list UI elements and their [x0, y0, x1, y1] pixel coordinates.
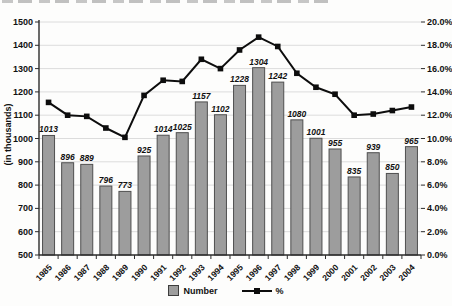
left-axis-tick-label: 1300 — [13, 64, 33, 74]
bar-value-label: 1080 — [287, 109, 306, 119]
x-axis-year-label: 1997 — [263, 262, 284, 283]
right-axis-tick-label: 6.0% — [427, 180, 448, 190]
x-axis-year-label: 1990 — [129, 262, 150, 283]
percent-marker-1998 — [294, 70, 300, 76]
bar-1988 — [100, 186, 112, 255]
x-axis-year-label: 1993 — [186, 262, 207, 283]
x-axis-year-label: 1987 — [72, 262, 93, 283]
bar-value-label: 1157 — [192, 91, 212, 101]
legend-label-percent: % — [276, 286, 284, 296]
left-axis-tick-label: 700 — [18, 203, 33, 213]
percent-marker-1996 — [256, 34, 262, 40]
x-axis-year-label: 1986 — [53, 262, 74, 283]
percent-line — [49, 37, 412, 137]
percent-marker-2004 — [409, 104, 415, 110]
bar-value-label: 965 — [404, 136, 418, 146]
bar-1985 — [43, 135, 55, 255]
percent-marker-1991 — [160, 77, 166, 83]
percent-marker-2001 — [351, 112, 357, 118]
right-axis-tick-label: 2.0% — [427, 227, 448, 237]
bar-1999 — [310, 138, 322, 255]
bar-value-label: 896 — [61, 152, 75, 162]
bar-1986 — [62, 163, 74, 255]
percent-marker-1999 — [313, 84, 319, 90]
percent-marker-1992 — [179, 79, 185, 85]
bar-value-label: 1025 — [173, 122, 192, 132]
bar-value-label: 1102 — [211, 104, 230, 114]
x-axis-year-label: 1995 — [225, 262, 246, 283]
bar-value-label: 1304 — [249, 57, 268, 67]
right-axis-tick-label: 10.0% — [427, 134, 452, 144]
line-swatch-icon — [242, 286, 272, 296]
bar-value-label: 939 — [366, 142, 380, 152]
right-axis-tick-label: 12.0% — [427, 110, 452, 120]
legend-item-number: Number — [168, 285, 217, 296]
right-axis-tick-label: 20.0% — [427, 17, 452, 27]
bar-2003 — [386, 173, 398, 255]
left-axis-tick-label: 500 — [18, 250, 33, 260]
percent-marker-1990 — [141, 93, 147, 99]
chart-page: (in thousands) 1013896889796773925101410… — [0, 0, 452, 306]
right-axis-tick-label: 0.0% — [427, 250, 448, 260]
bar-1992 — [176, 133, 188, 255]
bar-value-label: 1013 — [39, 124, 58, 134]
x-axis-year-label: 1988 — [91, 262, 112, 283]
bar-value-label: 773 — [118, 180, 132, 190]
percent-marker-1986 — [65, 112, 71, 118]
bar-2004 — [405, 147, 417, 255]
bar-2001 — [348, 177, 360, 255]
bar-value-label: 1242 — [268, 71, 287, 81]
percent-marker-2002 — [370, 111, 376, 117]
combo-chart: 1013896889796773925101410251157110212281… — [0, 0, 452, 306]
left-axis-tick-label: 1100 — [13, 110, 33, 120]
left-axis-tick-label: 800 — [18, 180, 33, 190]
percent-marker-2000 — [332, 91, 338, 97]
bar-value-label: 850 — [385, 162, 399, 172]
percent-marker-1985 — [46, 100, 52, 106]
left-axis-tick-label: 1200 — [13, 87, 33, 97]
bar-1994 — [214, 115, 226, 255]
percent-marker-1997 — [275, 44, 281, 50]
right-axis-tick-label: 18.0% — [427, 40, 452, 50]
percent-marker-1988 — [103, 125, 109, 131]
percent-marker-1995 — [237, 47, 243, 53]
x-axis-year-label: 1999 — [301, 262, 322, 283]
right-axis-tick-label: 4.0% — [427, 203, 448, 213]
bar-1987 — [81, 164, 93, 255]
bar-value-label: 1014 — [154, 124, 173, 134]
bar-value-label: 796 — [99, 175, 113, 185]
percent-marker-1987 — [84, 114, 90, 120]
x-axis-year-label: 1985 — [34, 262, 55, 283]
left-axis-tick-label: 1500 — [13, 17, 33, 27]
bar-1997 — [272, 82, 284, 255]
legend-label-number: Number — [183, 286, 217, 296]
bar-1995 — [234, 85, 246, 255]
percent-marker-1993 — [199, 56, 205, 62]
bar-value-label: 925 — [137, 145, 151, 155]
bar-1998 — [291, 120, 303, 255]
bar-1989 — [119, 191, 131, 255]
bar-2000 — [329, 149, 341, 255]
right-axis-tick-label: 8.0% — [427, 157, 448, 167]
bar-value-label: 1228 — [230, 74, 249, 84]
x-axis-year-label: 1991 — [148, 262, 169, 283]
left-axis-tick-label: 1400 — [13, 40, 33, 50]
bar-1993 — [195, 102, 207, 255]
bar-2002 — [367, 153, 379, 255]
x-axis-year-label: 2001 — [339, 262, 360, 283]
x-axis-year-label: 1994 — [205, 262, 226, 283]
x-axis-year-label: 1998 — [282, 262, 303, 283]
percent-marker-1994 — [218, 66, 224, 72]
x-axis-year-label: 2003 — [377, 262, 398, 283]
right-axis-tick-label: 14.0% — [427, 87, 452, 97]
left-axis-tick-label: 1000 — [13, 134, 33, 144]
x-axis-year-label: 2000 — [320, 262, 341, 283]
bar-value-label: 955 — [328, 138, 342, 148]
x-axis-year-label: 2004 — [396, 262, 417, 283]
x-axis-year-label: 1996 — [244, 262, 265, 283]
bar-value-label: 835 — [347, 166, 361, 176]
left-axis-tick-label: 900 — [18, 157, 33, 167]
right-axis-tick-label: 16.0% — [427, 64, 452, 74]
bar-1996 — [253, 68, 265, 255]
bar-value-label: 1001 — [306, 127, 325, 137]
